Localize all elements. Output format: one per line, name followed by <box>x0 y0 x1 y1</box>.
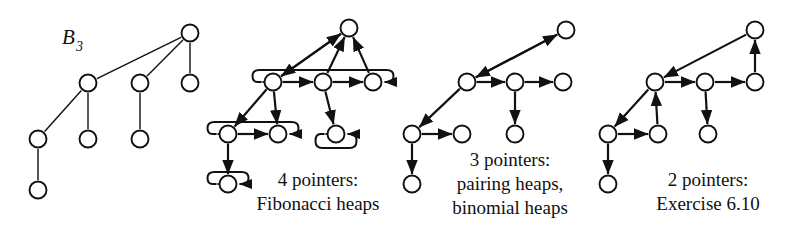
tree-node <box>341 20 358 37</box>
panel-caption-line: 3 pointers: <box>470 149 551 170</box>
tree-node <box>80 75 97 92</box>
panel-caption-line: 2 pointers: <box>668 169 749 190</box>
tree-node <box>404 176 421 193</box>
tree-node <box>182 25 199 42</box>
tree-node <box>30 182 47 199</box>
tree-node <box>650 126 667 143</box>
tree-node <box>315 74 332 91</box>
tree-node <box>600 126 617 143</box>
panel-caption-line: binomial heaps <box>452 197 568 218</box>
panel-caption-line: Exercise 6.10 <box>656 193 759 214</box>
panel-caption-line: 4 pointers: <box>278 169 359 190</box>
tree-node <box>220 176 237 193</box>
binomial-tree-label-subscript: 3 <box>75 39 83 54</box>
tree-node <box>365 74 382 91</box>
tree-node <box>270 126 287 143</box>
panel-caption-line: Fibonacci heaps <box>257 193 380 214</box>
tree-node <box>80 131 97 148</box>
tree-node <box>220 126 237 143</box>
tree-node <box>747 22 764 39</box>
tree-node <box>600 176 617 193</box>
tree-node <box>132 131 149 148</box>
tree-node <box>647 74 664 91</box>
tree-node <box>507 126 524 143</box>
tree-node <box>697 74 714 91</box>
tree-node <box>328 126 345 143</box>
tree-node <box>182 75 199 92</box>
panel-caption-line: pairing heaps, <box>457 173 564 194</box>
tree-node <box>558 22 575 39</box>
tree-node <box>700 126 717 143</box>
tree-node <box>459 74 476 91</box>
binomial-tree-label: B <box>62 25 75 49</box>
heap-pointer-representations-figure: B 3 4 pointers:Fibonacci heaps3 pointers… <box>0 0 793 235</box>
tree-node <box>555 74 572 91</box>
tree-node <box>265 74 282 91</box>
tree-node <box>747 74 764 91</box>
tree-node <box>30 131 47 148</box>
tree-node <box>507 74 524 91</box>
tree-node <box>404 126 421 143</box>
tree-node <box>454 126 471 143</box>
tree-node <box>132 75 149 92</box>
